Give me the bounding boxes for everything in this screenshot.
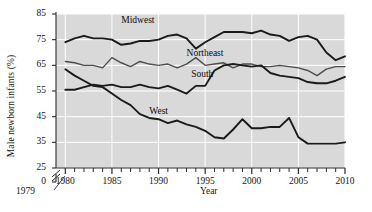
chart-figure: Male newborn infants (%) 1979 Year 02535… xyxy=(0,0,372,212)
x-axis-label: Year xyxy=(200,186,218,196)
x-tick-label: 2000 xyxy=(232,176,272,186)
series-label-west: West xyxy=(149,106,168,116)
x-tick-label: 2010 xyxy=(325,176,365,186)
y-tick-label: 35 xyxy=(24,136,46,146)
x-tick-label: 1990 xyxy=(139,176,179,186)
x-tick-label: 1980 xyxy=(45,176,85,186)
y-tick-label: 0 xyxy=(24,176,46,186)
y-axis-label: Male newborn infants (%) xyxy=(6,55,16,157)
y-tick-label: 55 xyxy=(24,85,46,95)
x-tick-label: 2005 xyxy=(278,176,318,186)
y-axis-ticks xyxy=(52,14,56,182)
y-tick-label: 45 xyxy=(24,111,46,121)
y-tick-label: 65 xyxy=(24,59,46,69)
x-axis-start-year-label: 1979 xyxy=(16,186,35,196)
series-label-northeast: Northeast xyxy=(187,48,224,58)
x-tick-label: 1995 xyxy=(185,176,225,186)
y-axis-label-wrap: Male newborn infants (%) xyxy=(9,0,23,212)
x-axis-ticks xyxy=(65,168,345,174)
series-label-south: South xyxy=(191,69,213,79)
y-tick-label: 85 xyxy=(24,8,46,18)
y-tick-label: 75 xyxy=(24,34,46,44)
y-tick-label: 25 xyxy=(24,162,46,172)
series-label-midwest: Midwest xyxy=(121,15,154,25)
x-tick-label: 1985 xyxy=(92,176,132,186)
